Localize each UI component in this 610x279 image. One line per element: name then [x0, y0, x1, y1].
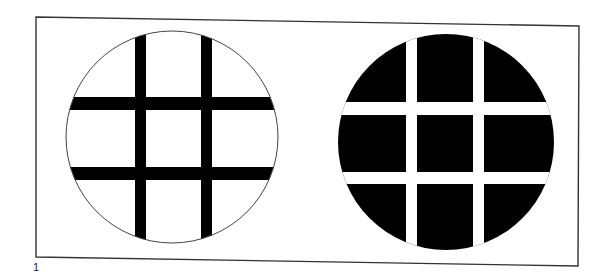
vertical-gap: [473, 32, 484, 252]
horizontal-bar: [64, 167, 280, 180]
horizontal-gap: [336, 172, 556, 184]
figure-number: 1: [33, 261, 39, 273]
vertical-gap: [406, 32, 417, 252]
black-disc-with-white-gaps: [336, 32, 556, 252]
vertical-bar: [201, 29, 212, 245]
right-circle: [338, 34, 554, 250]
figure-canvas: [0, 0, 610, 279]
horizontal-gap: [336, 102, 556, 115]
horizontal-bar: [64, 97, 280, 110]
white-disc-with-black-grid: [64, 29, 280, 245]
left-circle: [66, 31, 278, 243]
vertical-bar: [135, 29, 146, 245]
